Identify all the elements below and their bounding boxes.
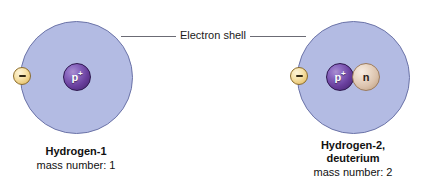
caption-hydrogen1: Hydrogen-1 mass number: 1	[16, 145, 136, 172]
isotope-diagram: p+ Hydrogen-1 mass number: 1 Electron sh…	[0, 0, 424, 188]
minus-icon	[296, 75, 303, 77]
leader-line-left	[121, 36, 176, 37]
neutron-hydrogen2: n	[352, 63, 380, 91]
electron-shell-label: Electron shell	[176, 29, 250, 41]
proton-charge-hydrogen1: +	[78, 70, 82, 78]
electron-hydrogen1	[13, 67, 31, 85]
electron-hydrogen2	[290, 67, 308, 85]
proton-hydrogen2: p+	[326, 63, 354, 91]
minus-icon	[19, 75, 26, 77]
proton-hydrogen1: p+	[63, 63, 91, 91]
mass-number-hydrogen2: mass number: 2	[293, 165, 413, 179]
proton-charge-hydrogen2: +	[341, 70, 345, 78]
atom-name-hydrogen2-line2: deuterium	[293, 152, 413, 165]
caption-hydrogen2: Hydrogen-2, deuterium mass number: 2	[293, 139, 413, 179]
atom-name-hydrogen1: Hydrogen-1	[16, 145, 136, 158]
neutron-label-hydrogen2: n	[363, 72, 370, 83]
atom-name-hydrogen2: Hydrogen-2,	[293, 139, 413, 152]
mass-number-hydrogen1: mass number: 1	[16, 158, 136, 172]
leader-line-right	[250, 36, 306, 37]
